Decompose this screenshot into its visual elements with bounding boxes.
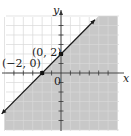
intercept-point — [40, 71, 44, 75]
y-axis-arrow — [59, 10, 63, 15]
y-axis-label: y — [52, 4, 60, 17]
inequality-graph: x y 0 (−2, 0) (0, 2) — [0, 0, 131, 136]
x-axis-label: x — [123, 72, 130, 85]
point-label-y-intercept: (0, 2) — [32, 46, 62, 59]
origin-label: 0 — [54, 75, 61, 88]
